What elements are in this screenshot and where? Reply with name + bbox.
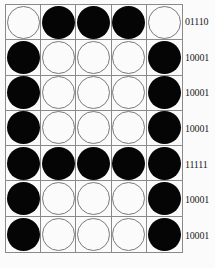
- row-code-label: 10001: [185, 182, 215, 218]
- grid-cell: [6, 217, 41, 252]
- empty-circle-icon: [112, 111, 145, 144]
- filled-circle-icon: [148, 111, 181, 144]
- row-code-label: 10001: [185, 75, 215, 111]
- grid-cell: [76, 181, 111, 216]
- empty-circle-icon: [77, 182, 110, 215]
- filled-circle-icon: [7, 147, 40, 180]
- filled-circle-icon: [112, 6, 145, 39]
- grid-cell: [41, 76, 76, 111]
- filled-circle-icon: [148, 218, 181, 251]
- grid-cell: [76, 217, 111, 252]
- filled-circle-icon: [7, 218, 40, 251]
- row-code-label: 10001: [185, 217, 215, 253]
- grid-cell: [76, 76, 111, 111]
- empty-circle-icon: [77, 41, 110, 74]
- empty-circle-icon: [112, 76, 145, 109]
- grid-cell: [6, 76, 41, 111]
- row-code-label: 01110: [185, 4, 215, 40]
- row-code-labels: 01110100011000110001111111000110001: [185, 4, 215, 253]
- row-code-label: 11111: [185, 146, 215, 182]
- filled-circle-icon: [42, 147, 75, 180]
- filled-circle-icon: [7, 76, 40, 109]
- empty-circle-icon: [42, 218, 75, 251]
- grid-cell: [41, 40, 76, 75]
- filled-circle-icon: [148, 147, 181, 180]
- grid-cell: [6, 181, 41, 216]
- filled-circle-icon: [7, 41, 40, 74]
- grid-cell: [147, 5, 182, 40]
- empty-circle-icon: [148, 6, 181, 39]
- empty-circle-icon: [42, 111, 75, 144]
- row-code-label: 10001: [185, 111, 215, 147]
- empty-circle-icon: [112, 182, 145, 215]
- filled-circle-icon: [42, 6, 75, 39]
- filled-circle-icon: [112, 147, 145, 180]
- grid-cell: [6, 146, 41, 181]
- grid-cell: [41, 5, 76, 40]
- grid-cell: [76, 40, 111, 75]
- filled-circle-icon: [77, 6, 110, 39]
- grid-cell: [76, 111, 111, 146]
- grid-cell: [112, 76, 147, 111]
- empty-circle-icon: [77, 218, 110, 251]
- grid-cell: [112, 40, 147, 75]
- grid-cell: [112, 181, 147, 216]
- filled-circle-icon: [148, 76, 181, 109]
- grid-cell: [6, 111, 41, 146]
- filled-circle-icon: [148, 41, 181, 74]
- empty-circle-icon: [42, 41, 75, 74]
- grid-cell: [41, 217, 76, 252]
- grid-cell: [112, 217, 147, 252]
- filled-circle-icon: [77, 147, 110, 180]
- grid-cell: [147, 40, 182, 75]
- row-code-label: 10001: [185, 40, 215, 76]
- grid-cell: [76, 146, 111, 181]
- empty-circle-icon: [7, 6, 40, 39]
- grid-cell: [112, 146, 147, 181]
- grid-cell: [41, 146, 76, 181]
- grid-cell: [112, 5, 147, 40]
- grid-cell: [112, 111, 147, 146]
- empty-circle-icon: [77, 111, 110, 144]
- grid-cell: [147, 111, 182, 146]
- empty-circle-icon: [112, 218, 145, 251]
- empty-circle-icon: [42, 76, 75, 109]
- empty-circle-icon: [77, 76, 110, 109]
- empty-circle-icon: [42, 182, 75, 215]
- grid-cell: [147, 146, 182, 181]
- grid-cell: [41, 111, 76, 146]
- grid-cell: [6, 5, 41, 40]
- grid-cell: [147, 76, 182, 111]
- grid-cell: [6, 40, 41, 75]
- empty-circle-icon: [112, 41, 145, 74]
- dot-matrix-grid: [5, 4, 183, 253]
- filled-circle-icon: [7, 111, 40, 144]
- grid-cell: [41, 181, 76, 216]
- grid-cell: [76, 5, 111, 40]
- filled-circle-icon: [7, 182, 40, 215]
- filled-circle-icon: [148, 182, 181, 215]
- grid-cell: [147, 217, 182, 252]
- grid-cell: [147, 181, 182, 216]
